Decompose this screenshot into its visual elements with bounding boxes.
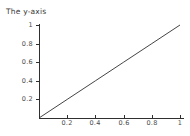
data-line-y-equals-x <box>39 25 180 118</box>
data-series-layer <box>0 0 190 136</box>
plot-area: 0.20.40.60.81 0.20.40.60.81 <box>0 0 190 136</box>
chart-screenshot: The y-axis 0.20.40.60.81 0.20.40.60.81 <box>0 0 190 136</box>
